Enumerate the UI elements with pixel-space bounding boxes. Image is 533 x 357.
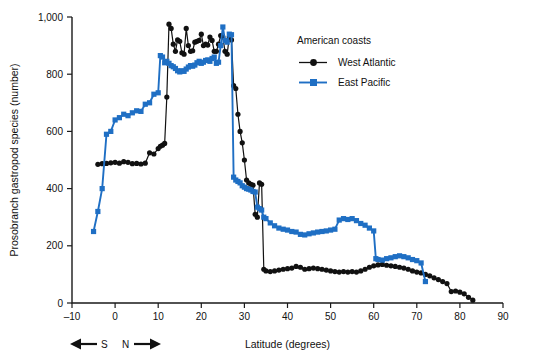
data-point	[169, 26, 174, 31]
data-point	[209, 38, 214, 43]
data-point	[371, 263, 376, 268]
data-point	[205, 42, 210, 47]
svg-text:S: S	[101, 339, 108, 350]
y-tick-label: 0	[57, 298, 63, 309]
data-point	[419, 260, 424, 265]
legend-title: American coasts	[297, 35, 371, 46]
data-point	[184, 26, 189, 31]
x-tick-label: 20	[196, 311, 208, 322]
y-tick-label: 400	[46, 183, 63, 194]
data-point	[173, 49, 178, 54]
data-point	[100, 186, 105, 191]
data-point	[319, 267, 324, 272]
x-tick-label: 90	[497, 311, 509, 322]
data-point	[108, 129, 113, 134]
legend-label: West Atlantic	[338, 57, 396, 68]
data-point	[156, 90, 161, 95]
south-north-annotation: SN	[70, 339, 161, 351]
data-point	[276, 268, 281, 273]
y-tick-label: 200	[46, 240, 63, 251]
x-tick-label: –10	[64, 311, 81, 322]
chart-canvas: 02004006008001,000–100102030405060708090…	[0, 0, 533, 357]
data-point	[199, 32, 204, 37]
data-point	[259, 207, 264, 212]
data-point	[113, 160, 118, 165]
data-point	[462, 291, 467, 296]
x-tick-label: 50	[325, 311, 337, 322]
data-point	[240, 140, 245, 145]
x-tick-label: 10	[153, 311, 165, 322]
x-axis-label: Latitude (degrees)	[245, 338, 330, 350]
x-tick-label: 40	[282, 311, 294, 322]
data-point	[397, 265, 402, 270]
data-point	[214, 49, 219, 54]
data-point	[138, 161, 143, 166]
y-axis-label: Prosobranch gastropod species (number)	[8, 63, 20, 256]
legend-label: East Pacific	[338, 77, 390, 88]
data-point	[212, 54, 217, 59]
data-point	[466, 295, 471, 300]
data-point	[147, 100, 152, 105]
data-point	[225, 52, 230, 57]
data-point	[233, 86, 238, 91]
data-point	[138, 109, 143, 114]
data-point	[294, 264, 299, 269]
data-point	[190, 48, 195, 53]
data-point	[259, 182, 264, 187]
x-tick-label: 30	[239, 311, 251, 322]
data-point	[151, 151, 156, 156]
y-tick-label: 1,000	[38, 12, 63, 23]
data-point	[371, 228, 376, 233]
data-point	[237, 129, 242, 134]
legend-marker	[310, 79, 317, 86]
chart-figure: 02004006008001,000–100102030405060708090…	[0, 0, 533, 357]
x-tick-label: 60	[368, 311, 380, 322]
data-point	[95, 209, 100, 214]
axis-lines	[72, 17, 503, 303]
x-tick-label: 0	[112, 311, 118, 322]
data-point	[242, 157, 247, 162]
y-tick-label: 600	[46, 126, 63, 137]
data-point	[444, 281, 449, 286]
legend-item-east-pacific[interactable]: East Pacific	[299, 77, 390, 88]
data-point	[393, 264, 398, 269]
data-point	[229, 32, 234, 37]
x-tick-label: 80	[454, 311, 466, 322]
data-point	[162, 141, 167, 146]
data-point	[197, 38, 202, 43]
data-point	[423, 279, 428, 284]
legend-marker	[310, 59, 317, 66]
data-point	[414, 270, 419, 275]
data-point	[181, 52, 186, 57]
data-point	[177, 39, 182, 44]
legend: American coastsWest AtlanticEast Pacific	[297, 35, 396, 88]
x-tick-label: 70	[411, 311, 423, 322]
data-point	[225, 40, 230, 45]
legend-item-west-atlantic[interactable]: West Atlantic	[299, 57, 396, 68]
data-point	[255, 215, 260, 220]
data-point	[186, 43, 191, 48]
data-point	[143, 161, 148, 166]
data-point	[220, 24, 225, 29]
data-point	[272, 268, 277, 273]
data-point	[216, 60, 221, 65]
data-point	[171, 42, 176, 47]
data-point	[470, 298, 475, 303]
data-point	[218, 43, 223, 48]
data-point	[324, 268, 329, 273]
data-point	[91, 229, 96, 234]
data-point	[235, 112, 240, 117]
data-point	[164, 94, 169, 99]
data-point	[253, 189, 258, 194]
y-tick-label: 800	[46, 69, 63, 80]
svg-text:N: N	[122, 339, 129, 350]
data-point	[332, 227, 337, 232]
